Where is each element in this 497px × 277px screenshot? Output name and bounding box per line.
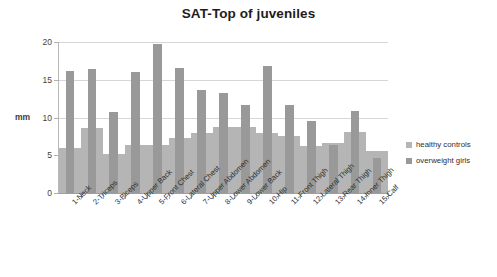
bar-overweight-girls [66, 71, 75, 193]
chart-title: SAT-Top of juveniles [0, 6, 497, 21]
y-tick-mark [54, 193, 59, 194]
legend-swatch-icon [406, 142, 412, 148]
plot-area [59, 42, 388, 193]
y-tick-label: 20 [28, 37, 52, 47]
y-tick-mark [54, 155, 59, 156]
legend-swatch-icon [406, 158, 412, 164]
legend-label: overweight girls [416, 156, 470, 165]
y-tick-label: 0 [28, 188, 52, 198]
y-tick-label: 15 [28, 75, 52, 85]
chart-container: SAT-Top of juveniles mm healthy controls… [0, 0, 497, 277]
legend-label: healthy controls [416, 140, 471, 149]
chart-legend: healthy controlsoverweight girls [406, 140, 471, 172]
bar-overweight-girls [153, 44, 162, 193]
gridline [59, 80, 388, 81]
legend-item[interactable]: healthy controls [406, 140, 471, 149]
y-tick-mark [54, 80, 59, 81]
y-tick-mark [54, 118, 59, 119]
bar-overweight-girls [131, 72, 140, 193]
y-tick-mark [54, 42, 59, 43]
gridline [59, 42, 388, 43]
y-tick-label: 10 [28, 113, 52, 123]
legend-item[interactable]: overweight girls [406, 156, 471, 165]
bar-overweight-girls [285, 105, 294, 193]
bar-overweight-girls [88, 69, 97, 193]
y-tick-label: 5 [28, 150, 52, 160]
